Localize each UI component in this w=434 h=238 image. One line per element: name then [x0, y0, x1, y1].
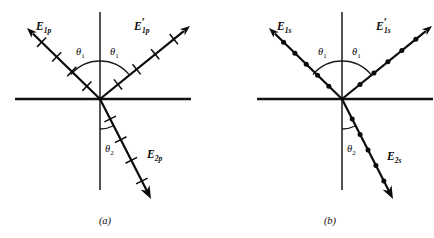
ray-label-transmitted: E2s: [386, 150, 401, 165]
polarization-dot-marker: [350, 117, 355, 122]
polarization-dot-marker: [373, 163, 378, 168]
ray-label-incident: E1p: [35, 20, 51, 35]
ray-shaft: [33, 34, 100, 99]
angle-arc-transmitted: [100, 126, 114, 129]
ray-label-incident: E1s: [276, 20, 291, 35]
ray-label-reflected: E′1s: [375, 16, 391, 35]
ray-incident: [269, 28, 342, 99]
panel-a: E1pE′1pE2pθ1θ1θ2(a): [0, 0, 217, 238]
polarization-dot-marker: [281, 40, 286, 45]
panel-caption: (a): [99, 215, 112, 227]
ray-reflected: [342, 26, 432, 99]
panel-b: E1sE′1sE2sθ1θ1θ2(b): [217, 0, 434, 238]
polarization-dot-marker: [358, 82, 363, 87]
angle-label-theta-2-transmitted: θ2: [105, 143, 114, 157]
angle-label-theta-2-transmitted: θ2: [347, 143, 356, 157]
polarization-dot-marker: [358, 132, 363, 137]
ray-shaft: [342, 31, 426, 99]
ray-reflected: [100, 26, 190, 99]
angle-arc-incident: [313, 61, 342, 75]
angle-arc-reflected: [342, 61, 371, 75]
polarization-dot-marker: [413, 37, 418, 42]
ray-incident: [27, 28, 100, 99]
figure-root: E1pE′1pE2pθ1θ1θ2(a)E1sE′1sE2sθ1θ1θ2(b): [0, 0, 434, 238]
panel-caption: (b): [324, 215, 337, 227]
polarization-dot-marker: [315, 73, 320, 78]
ray-shaft: [100, 31, 184, 99]
polarization-dot-marker: [381, 179, 386, 184]
ray-label-transmitted: E2p: [146, 148, 162, 163]
polarization-dot-marker: [399, 48, 404, 53]
ray-label-reflected: E′1p: [133, 16, 150, 35]
angle-label-theta-1-reflected: θ1: [352, 46, 361, 60]
polarization-dot-marker: [326, 84, 331, 89]
angle-label-theta-1-reflected: θ1: [110, 46, 119, 60]
angle-arc-reflected: [100, 61, 129, 75]
polarization-dot-marker: [385, 59, 390, 64]
polarization-dot-marker: [304, 62, 309, 67]
polarization-dot-marker: [366, 148, 371, 153]
angle-label-theta-1-incident: θ1: [76, 46, 85, 60]
polarization-dot-marker: [371, 71, 376, 76]
polarization-dot-marker: [292, 51, 297, 56]
angle-arc-transmitted: [342, 126, 356, 129]
angle-label-theta-1-incident: θ1: [318, 46, 327, 60]
